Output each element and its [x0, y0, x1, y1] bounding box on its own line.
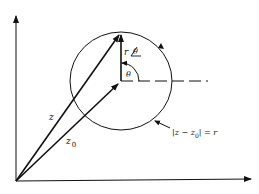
equation-pointer-arrow — [155, 121, 170, 128]
label-z0: z0 — [65, 136, 76, 149]
diagram-canvas: z z0 r θ θ |z − z0| = r — [0, 0, 259, 194]
x-axis — [16, 179, 251, 181]
vector-z0 — [16, 84, 118, 181]
label-r: r — [124, 47, 129, 57]
circle-direction-arrow-icon — [158, 43, 164, 49]
label-theta: θ — [126, 70, 131, 79]
vector-z — [16, 35, 119, 181]
label-z: z — [48, 112, 54, 122]
circle-equation: |z − z0| = r — [172, 128, 218, 139]
label-r-theta: θ — [133, 47, 138, 56]
